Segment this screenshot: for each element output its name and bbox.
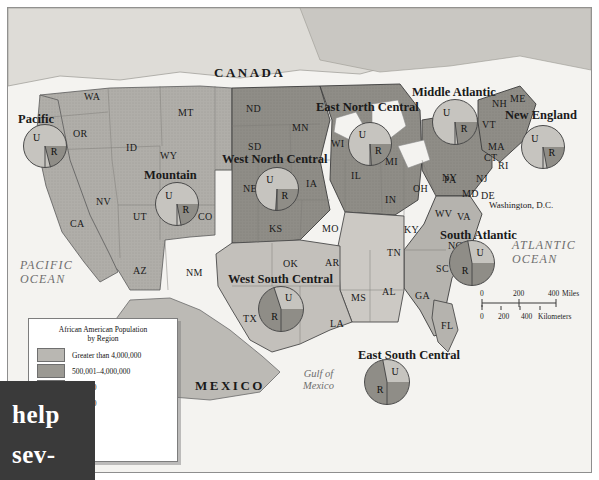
- pie-label-rural-east-south-central: R: [377, 384, 384, 395]
- legend-swatch: [37, 364, 65, 378]
- ocean-label-atlantic: ATLANTIC OCEAN: [512, 238, 576, 266]
- state-label-mt: MT: [178, 107, 194, 118]
- scale-miles-tick: 200: [513, 289, 524, 298]
- state-label-wi: WI: [331, 138, 345, 149]
- state-label-ma: MA: [488, 141, 505, 152]
- pie-label-rural-south-atlantic: R: [462, 265, 469, 276]
- pie-label-rural-new-england: R: [548, 147, 555, 158]
- state-label-or: OR: [73, 128, 88, 139]
- state-label-id: ID: [126, 142, 137, 153]
- country-label-canada: CANADA: [214, 65, 285, 81]
- pie-wedge-lines-middle-atlantic: [432, 99, 478, 145]
- pie-wedge-lines-east-north-central: [348, 122, 392, 166]
- pie-wedge-lines-new-england: [521, 125, 565, 169]
- pie-wedge-lines-south-atlantic: [449, 240, 495, 286]
- pie-wedge-lines-east-south-central: [364, 359, 410, 405]
- state-label-az: AZ: [133, 265, 147, 276]
- state-label-nd: ND: [246, 103, 261, 114]
- legend-row: Greater than 4,000,000: [37, 348, 177, 362]
- scale-km-unit: Kilometers: [538, 312, 571, 321]
- pie-wedge-lines-west-south-central: [258, 286, 304, 332]
- state-label-tx: TX: [243, 313, 257, 324]
- state-label-ks: KS: [269, 223, 283, 234]
- state-label-ca: CA: [70, 218, 85, 229]
- state-label-ct: CT: [484, 152, 498, 163]
- pie-label-urban-mountain: U: [165, 190, 172, 201]
- state-label-ga: GA: [415, 290, 430, 301]
- legend-title-line-2: by Region: [35, 334, 171, 343]
- state-label-md: MD: [462, 188, 479, 199]
- state-label-il: IL: [351, 170, 361, 181]
- atlantic-line-1: ATLANTIC: [512, 238, 576, 252]
- legend-label: Greater than 4,000,000: [72, 351, 141, 360]
- state-label-sc: SC: [436, 263, 449, 274]
- state-label-al: AL: [382, 286, 396, 297]
- region-label-west-north-central: West North Central: [222, 152, 328, 167]
- region-label-east-north-central: East North Central: [316, 100, 419, 115]
- state-label-de: DE: [481, 190, 495, 201]
- pie-label-urban-west-north-central: U: [266, 174, 273, 185]
- pie-label-urban-south-atlantic: U: [477, 247, 484, 258]
- state-label-oh: OH: [413, 183, 428, 194]
- gulf-line-1: Gulf of: [303, 368, 334, 380]
- legend-title: African American Population by Region: [29, 319, 177, 346]
- state-label-wy: WY: [160, 150, 177, 161]
- pie-label-rural-east-north-central: R: [375, 145, 382, 156]
- overlay-line-2: sev-: [0, 435, 95, 475]
- state-label-vt: VT: [482, 119, 496, 130]
- state-label-tn: TN: [387, 247, 401, 258]
- pie-label-urban-pacific: U: [33, 132, 40, 143]
- overlay-line-1: help: [0, 381, 95, 435]
- legend-title-line-1: African American Population: [35, 325, 171, 334]
- legend-swatch: [37, 348, 65, 362]
- gulf-of-mexico-label: Gulf of Mexico: [303, 368, 334, 392]
- region-label-west-south-central: West South Central: [228, 272, 333, 287]
- pie-wedge-lines-mountain: [155, 182, 199, 226]
- state-label-nv: NV: [96, 196, 111, 207]
- state-label-ri: RI: [498, 160, 509, 171]
- washington-dc-label: Washington, D.C.: [489, 200, 553, 210]
- scale-miles-unit: Miles: [562, 289, 579, 298]
- pie-label-urban-new-england: U: [531, 133, 538, 144]
- region-label-middle-atlantic: Middle Atlantic: [412, 85, 496, 100]
- state-label-in: IN: [385, 194, 396, 205]
- legend-row: 500,001–4,000,000: [37, 364, 177, 378]
- ocean-label-pacific: PACIFIC OCEAN: [20, 258, 73, 286]
- state-label-ok: OK: [283, 258, 298, 269]
- pie-label-rural-west-north-central: R: [282, 190, 289, 201]
- pie-label-rural-middle-atlantic: R: [461, 123, 468, 134]
- pie-wedge-lines-west-north-central: [255, 167, 299, 211]
- scale-miles-tick: 400: [548, 289, 559, 298]
- pie-label-rural-mountain: R: [182, 204, 189, 215]
- pie-label-rural-west-south-central: R: [271, 311, 278, 322]
- state-label-co: CO: [198, 211, 213, 222]
- gulf-line-2: Mexico: [303, 380, 334, 392]
- pacific-line-2: OCEAN: [20, 272, 73, 286]
- scale-km-tick: 0: [480, 312, 484, 321]
- atlantic-line-2: OCEAN: [512, 252, 576, 266]
- state-label-mo: MO: [322, 223, 339, 234]
- pie-label-urban-west-south-central: U: [285, 292, 292, 303]
- pie-label-rural-pacific: R: [51, 146, 58, 157]
- state-label-ar: AR: [325, 257, 340, 268]
- state-label-ia: IA: [306, 178, 317, 189]
- legend-label: 500,001–4,000,000: [72, 367, 130, 376]
- state-label-la: LA: [330, 318, 344, 329]
- text-overlay: help sev-: [0, 381, 95, 480]
- state-label-va: VA: [457, 211, 471, 222]
- pie-label-urban-east-south-central: U: [392, 366, 399, 377]
- state-label-fl: FL: [441, 320, 453, 331]
- state-label-mn: MN: [292, 122, 309, 133]
- pie-label-urban-east-north-central: U: [359, 129, 366, 140]
- state-label-wv: WV: [435, 208, 452, 219]
- state-label-nj: NJ: [476, 173, 488, 184]
- state-label-ut: UT: [133, 211, 147, 222]
- pie-wedge-lines-pacific: [23, 124, 67, 168]
- map-figure: CANADA MEXICO PACIFIC OCEAN ATLANTIC OCE…: [0, 0, 599, 480]
- pacific-line-1: PACIFIC: [20, 258, 73, 272]
- scale-km-tick: 200: [498, 312, 509, 321]
- state-label-pa: PA: [444, 174, 457, 185]
- state-label-nm: NM: [186, 267, 203, 278]
- pie-label-urban-middle-atlantic: U: [443, 107, 450, 118]
- scale-km-tick: 400: [521, 312, 532, 321]
